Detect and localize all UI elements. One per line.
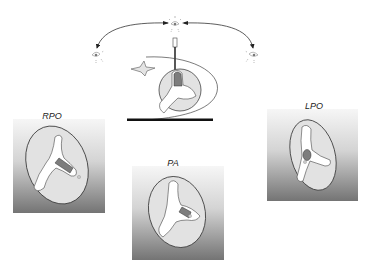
- view-lpo: [267, 109, 358, 201]
- view-label-lpo: LPO: [294, 101, 334, 111]
- arrow-left-arc: [97, 23, 168, 48]
- view-rpo: [13, 117, 105, 213]
- eye-left-icon: [92, 51, 104, 64]
- diagram-canvas: [0, 0, 370, 267]
- view-label-rpo: RPO: [32, 111, 72, 121]
- central-heart-icon: [159, 69, 201, 113]
- star-marker-icon: [131, 61, 155, 76]
- arrow-left-inward: [163, 21, 169, 25]
- eye-right-icon: [245, 51, 258, 64]
- arrow-right-arc: [184, 23, 253, 48]
- view-pa: [132, 166, 224, 260]
- transducer-icon: [173, 38, 177, 72]
- view-label-pa: PA: [153, 158, 193, 168]
- diagram-stage: RPO PA LPO: [0, 0, 370, 267]
- eye-anterior-icon: [169, 16, 181, 32]
- table-bar: [127, 119, 213, 122]
- arrow-right-inward: [182, 21, 188, 25]
